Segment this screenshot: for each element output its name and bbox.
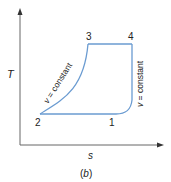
process-label-2-3: v = constant: [41, 60, 74, 105]
y-axis-label: T: [7, 68, 15, 80]
point-label-2: 2: [35, 117, 41, 128]
process-label-2-3-rest: = constant: [43, 60, 74, 101]
point-label-3: 3: [86, 31, 92, 42]
ts-diagram: 3 4 2 1 v = constant v = constant T s (b…: [0, 0, 171, 182]
point-label-4: 4: [128, 31, 134, 42]
caption: (b): [80, 168, 92, 179]
x-axis-label: s: [88, 150, 93, 161]
process-label-4-1-rest: = constant: [135, 60, 145, 102]
process-label-4-1: v = constant: [135, 60, 145, 107]
point-label-1: 1: [109, 117, 115, 128]
process-4-1: [116, 44, 132, 114]
x-axis-arrow-icon: [157, 143, 164, 148]
y-axis-arrow-icon: [18, 8, 23, 15]
